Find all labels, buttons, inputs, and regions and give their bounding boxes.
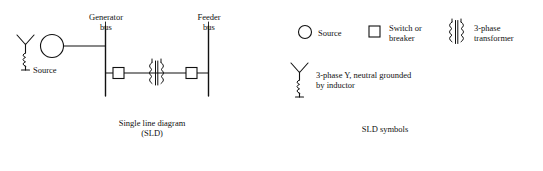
- feeder-bus-label-line2: bus: [178, 22, 240, 32]
- sld-caption-line1: Single line diagram: [82, 118, 222, 128]
- switch-breaker-left: [113, 68, 124, 79]
- legend-wye-symbol: [291, 63, 308, 97]
- generator-circle-symbol: [41, 35, 64, 58]
- legend-wye-label-line2: by inductor: [316, 80, 355, 90]
- figure-root: Generator bus Feeder bus Source Single l…: [0, 0, 543, 171]
- source-wye-symbol: [17, 35, 34, 70]
- transformer-symbol-main: [150, 59, 164, 85]
- legend-source-label: Source: [318, 28, 342, 38]
- generator-bus-label-line2: bus: [75, 22, 137, 32]
- legend-transformer-symbol: [450, 19, 464, 44]
- legend-switch-label-line1: Switch or: [389, 23, 422, 33]
- source-label: Source: [33, 65, 57, 75]
- switch-breaker-right: [186, 68, 197, 79]
- sld-symbols-caption: SLD symbols: [330, 124, 440, 134]
- legend-square-symbol: [369, 26, 380, 37]
- legend-switch-label-line2: breaker: [389, 33, 414, 43]
- legend-transformer-label-line2: transformer: [474, 33, 514, 43]
- legend-circle-symbol: [299, 26, 312, 39]
- generator-bus-label-line1: Generator: [75, 12, 137, 22]
- legend-wye-label-line1: 3-phase Y, neutral grounded: [316, 70, 411, 80]
- sld-caption-line2: (SLD): [82, 128, 222, 138]
- legend-transformer-label-line1: 3-phase: [474, 23, 500, 33]
- feeder-bus-label-line1: Feeder: [178, 12, 240, 22]
